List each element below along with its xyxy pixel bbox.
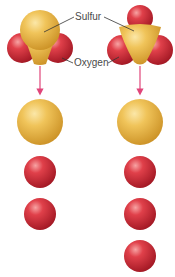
right-oxygen-atom-3: [124, 240, 156, 272]
right-oxygen-atom-1: [124, 156, 156, 188]
so2-sulfur: [20, 10, 60, 50]
diagram-canvas: [0, 0, 175, 277]
right-sulfur-atom: [117, 99, 163, 145]
left-oxygen-atom-2: [24, 198, 56, 230]
oxygen-label: Oxygen: [74, 58, 108, 68]
so2-molecule: [7, 10, 73, 65]
left-sulfur-atom: [17, 99, 63, 145]
left-oxygen-atom-1: [24, 156, 56, 188]
right-oxygen-atom-2: [124, 198, 156, 230]
so3-molecule: [107, 5, 173, 65]
sulfur-label: Sulfur: [75, 12, 101, 22]
